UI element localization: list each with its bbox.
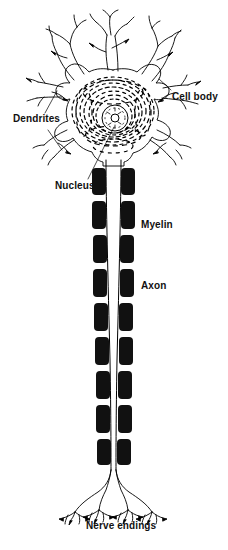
myelin-segment [93, 269, 107, 297]
label-axon: Axon [141, 281, 166, 291]
myelin-segment [120, 269, 134, 297]
myelin-segment [92, 201, 106, 229]
neuron-illustration [0, 0, 228, 550]
nucleolus [111, 114, 119, 122]
label-dendrites: Dendrites [13, 114, 60, 124]
neuron-diagram: Dendrites Cell body Nucleus Myelin Axon … [0, 0, 228, 550]
myelin-segment [117, 439, 131, 465]
myelin-segment [96, 405, 110, 433]
myelin-segment [121, 168, 135, 195]
myelin-segment [97, 439, 111, 465]
myelin-segment [118, 371, 132, 399]
myelin-segment [118, 405, 132, 433]
myelin-segment [120, 235, 134, 263]
myelin-segment [95, 337, 109, 365]
myelin-segment [96, 371, 110, 399]
myelin-segment [94, 303, 108, 331]
myelin-segment [93, 235, 107, 263]
myelin-segment [119, 303, 133, 331]
nucleus-group [102, 105, 128, 131]
myelin-segment [121, 201, 135, 229]
myelin-segment [119, 337, 133, 365]
label-nucleus: Nucleus [55, 181, 95, 191]
label-cell-body: Cell body [172, 92, 218, 102]
label-myelin: Myelin [141, 220, 173, 230]
label-nerve-endings: Nerve endings [86, 521, 156, 531]
